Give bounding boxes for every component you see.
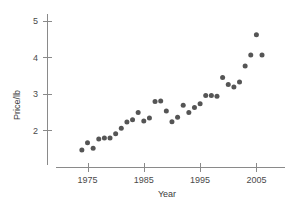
data-point: [203, 93, 208, 98]
data-point: [113, 131, 118, 136]
data-point-group: [79, 32, 264, 152]
data-point: [220, 75, 225, 80]
data-point: [237, 79, 242, 84]
data-point: [209, 93, 214, 98]
data-point: [79, 148, 84, 153]
data-point: [186, 110, 191, 115]
data-point: [248, 53, 253, 58]
data-point: [198, 101, 203, 106]
y-axis-group: 2345: [33, 14, 52, 165]
chart-canvas: 2345 1975198519952005 Price/lb Year: [0, 0, 294, 207]
y-axis-title: Price/lb: [12, 90, 22, 120]
data-point: [158, 98, 163, 103]
y-tick-label: 4: [33, 53, 38, 63]
data-point: [231, 85, 236, 90]
data-point: [147, 115, 152, 120]
data-point: [102, 136, 107, 141]
data-point: [124, 119, 129, 124]
x-tick-label: 1995: [190, 175, 210, 185]
y-axis-tick-labels: 2345: [33, 16, 38, 135]
data-point: [153, 99, 158, 104]
data-point: [254, 32, 259, 37]
data-point: [214, 94, 219, 99]
data-point: [108, 136, 113, 141]
data-point: [175, 115, 180, 120]
y-tick-label: 5: [33, 16, 38, 26]
data-point: [226, 82, 231, 87]
x-axis-tick-labels: 1975198519952005: [77, 175, 266, 185]
y-tick-label: 3: [33, 89, 38, 99]
x-tick-label: 1975: [77, 175, 97, 185]
x-axis-group: 1975198519952005: [56, 163, 285, 185]
data-point: [136, 110, 141, 115]
scatter-plot-figure: 2345 1975198519952005 Price/lb Year: [0, 0, 294, 207]
y-tick-label: 2: [33, 126, 38, 136]
data-point: [164, 109, 169, 114]
data-point: [192, 105, 197, 110]
data-point: [141, 118, 146, 123]
data-point: [181, 103, 186, 108]
data-point: [91, 146, 96, 151]
x-axis-title: Year: [158, 189, 176, 199]
data-point: [260, 53, 265, 58]
x-tick-label: 2005: [246, 175, 266, 185]
data-point: [243, 63, 248, 68]
data-point: [130, 117, 135, 122]
data-point: [96, 137, 101, 142]
x-tick-label: 1985: [134, 175, 154, 185]
data-point: [169, 119, 174, 124]
data-point: [85, 140, 90, 145]
data-point: [119, 126, 124, 131]
